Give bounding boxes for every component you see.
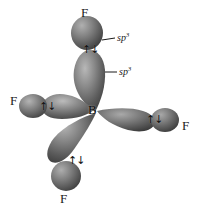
atom-label-fluorine-bottom: F bbox=[60, 192, 67, 205]
hybrid-orbital-label-upper-text: sp bbox=[117, 32, 126, 43]
hybrid-orbital-label-lower: sp3 bbox=[119, 67, 131, 77]
atom-label-fluorine-left: F bbox=[10, 94, 17, 107]
bond-bottom-group bbox=[47, 113, 96, 191]
atom-label-fluorine-right: F bbox=[182, 119, 189, 132]
hybrid-orbital-label-upper: sp3 bbox=[117, 33, 129, 43]
leader-line-sp3-upper bbox=[102, 38, 115, 40]
bond-top-group bbox=[71, 16, 105, 112]
atom-label-fluorine-top: F bbox=[81, 6, 88, 19]
electron-pair-bottom: ↑↓ bbox=[68, 155, 84, 166]
electron-pair-right: ↑↓ bbox=[146, 114, 162, 125]
bond-right-group bbox=[97, 108, 179, 132]
electron-pair-top: ↑↓ bbox=[82, 44, 98, 55]
hybrid-orbital-label-upper-exponent: 3 bbox=[126, 31, 129, 38]
orbital-diagram-figure: F F F F B ↑↓ ↑↓ ↑↓ ↑↓ sp3 sp3 bbox=[0, 0, 198, 212]
hybrid-orbital-label-lower-text: sp bbox=[119, 66, 128, 77]
orbital-lobes-graphic bbox=[0, 0, 198, 212]
electron-pair-left: ↑↓ bbox=[39, 101, 55, 112]
hybrid-orbital-label-lower-exponent: 3 bbox=[128, 65, 131, 72]
atom-label-boron-center: B bbox=[88, 103, 97, 116]
